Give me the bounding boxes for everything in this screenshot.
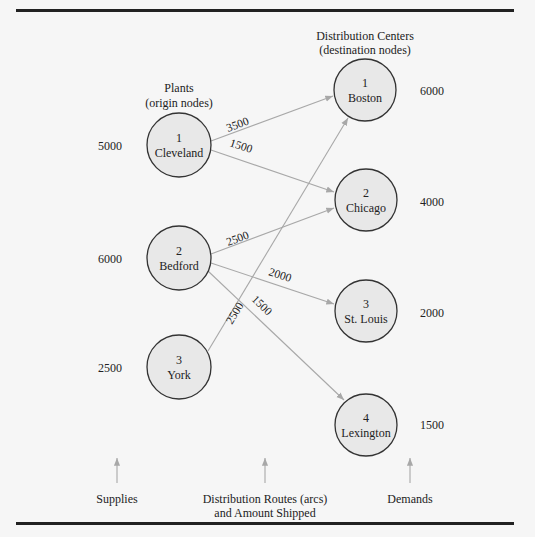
top-rule — [16, 9, 514, 12]
node-name: Lexington — [341, 426, 390, 440]
arc-bedford-lexington — [208, 271, 344, 400]
routes-label-line2: and Amount Shipped — [214, 506, 315, 520]
destination-node-chicago: 2 Chicago — [335, 169, 397, 231]
routes-label-line1: Distribution Routes (arcs) — [203, 492, 328, 506]
supply-cleveland: 5000 — [98, 139, 122, 153]
plants-title: Plants — [164, 81, 194, 95]
arc-label-cleveland-chicago: 1500 — [228, 136, 254, 155]
node-id: 1 — [176, 131, 182, 145]
destination-node-boston: 1 Boston — [334, 59, 396, 121]
bottom-rule — [16, 522, 514, 525]
plants-header: Plants (origin nodes) — [145, 81, 213, 110]
demand-lexington: 1500 — [420, 418, 444, 432]
destination-node-stlouis: 3 St. Louis — [335, 280, 397, 342]
demand-chicago: 4000 — [420, 195, 444, 209]
origin-node-bedford: 2 Bedford — [147, 226, 211, 290]
destination-node-lexington: 4 Lexington — [335, 394, 397, 456]
supplies-label: Supplies — [96, 492, 138, 506]
demand-stlouis: 2000 — [420, 306, 444, 320]
dc-subtitle: (destination nodes) — [319, 43, 411, 57]
arc-label-bedford-stlouis: 2000 — [267, 265, 293, 284]
distribution-centers-header: Distribution Centers (destination nodes) — [316, 29, 414, 57]
node-id: 3 — [363, 297, 369, 311]
origin-node-cleveland: 1 Cleveland — [147, 113, 211, 177]
arcs — [208, 96, 348, 400]
supply-bedford: 6000 — [98, 252, 122, 266]
node-name: St. Louis — [344, 312, 388, 326]
arc-label-bedford-chicago: 2500 — [225, 229, 251, 248]
dc-title: Distribution Centers — [316, 29, 414, 43]
transportation-network-diagram: Plants (origin nodes) Distribution Cente… — [0, 0, 535, 537]
node-name: York — [167, 368, 190, 382]
supply-york: 2500 — [98, 361, 122, 375]
demand-boston: 6000 — [420, 84, 444, 98]
node-name: Chicago — [346, 201, 386, 215]
node-id: 2 — [176, 244, 182, 258]
origin-node-york: 3 York — [147, 335, 211, 399]
node-id: 4 — [363, 411, 369, 425]
footer-pointers — [117, 458, 410, 483]
arc-cleveland-boston — [211, 96, 333, 141]
plants-subtitle: (origin nodes) — [145, 96, 213, 110]
demands-label: Demands — [387, 492, 433, 506]
node-name: Boston — [348, 91, 382, 105]
arc-labels: 3500 1500 2500 2000 1500 2500 — [223, 115, 293, 326]
node-id: 2 — [363, 186, 369, 200]
node-id: 3 — [176, 353, 182, 367]
node-name: Bedford — [159, 259, 198, 273]
node-id: 1 — [362, 76, 368, 90]
node-name: Cleveland — [155, 146, 204, 160]
